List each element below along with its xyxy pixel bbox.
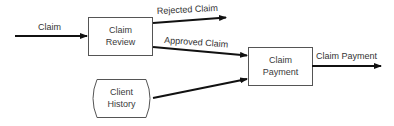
claim-payment-line2: Payment bbox=[263, 67, 299, 77]
approved-claim-arrow bbox=[153, 47, 247, 56]
client-history-line1: Client bbox=[110, 87, 134, 97]
claim-payment-line1: Claim bbox=[269, 55, 292, 65]
approved-claim-label: Approved Claim bbox=[164, 35, 229, 49]
claim-review-line2: Review bbox=[106, 37, 136, 47]
claim-payment-out-label: Claim Payment bbox=[316, 51, 378, 61]
claim-flow-label: Claim bbox=[38, 22, 61, 32]
rejected-claim-label: Rejected Claim bbox=[157, 3, 218, 16]
client-history-node: Client History bbox=[93, 80, 150, 118]
claim-review-line1: Claim bbox=[109, 25, 132, 35]
claim-payment-node: Claim Payment bbox=[249, 48, 313, 86]
claim-review-node: Claim Review bbox=[89, 18, 153, 56]
client-history-line2: History bbox=[107, 99, 136, 109]
client-history-arrow bbox=[153, 79, 247, 98]
rejected-claim-arrow bbox=[153, 18, 226, 24]
data-flow-diagram: Claim Claim Review Rejected Claim Approv… bbox=[0, 0, 394, 126]
